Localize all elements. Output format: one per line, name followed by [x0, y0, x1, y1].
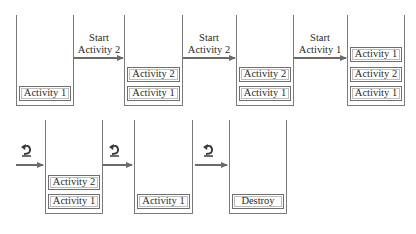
transition-label-line1: Start: [183, 32, 235, 44]
arrow-right: [103, 164, 132, 166]
back-icon: [201, 142, 217, 158]
back-icon: [19, 142, 35, 158]
activity-stack-3: Activity 2 Activity 1: [236, 15, 294, 106]
activity-stack-4: Activity 1 Activity 2 Activity 1: [347, 15, 405, 106]
activity-stack-5: Activity 2 Activity 1: [45, 120, 103, 214]
transition-label: Start Activity 2: [183, 32, 235, 56]
stack-item-destroy: Destroy: [232, 194, 284, 209]
activity-stack-1: Activity 1: [16, 15, 74, 106]
stack-item: Activity 1: [350, 86, 402, 101]
transition-label-line2: Activity 1: [294, 44, 346, 56]
stack-item: Activity 2: [48, 175, 100, 190]
arrow-right: [195, 164, 227, 166]
transition-label-line1: Start: [294, 32, 346, 44]
stack-item: Activity 2: [350, 67, 402, 82]
stack-item: Activity 2: [127, 67, 180, 82]
activity-stack-2: Activity 2 Activity 1: [124, 15, 183, 106]
arrow-right: [294, 57, 346, 59]
stack-item: Activity 1: [48, 194, 100, 209]
stack-item: Activity 2: [239, 67, 291, 82]
transition-label: Start Activity 2: [74, 32, 124, 56]
arrow-right: [183, 57, 235, 59]
back-icon: [107, 142, 123, 158]
stack-item: Activity 1: [350, 47, 402, 62]
arrow-right: [74, 57, 123, 59]
stack-item: Activity 1: [19, 86, 71, 101]
stack-item: Activity 1: [127, 86, 180, 101]
stack-item: Activity 1: [239, 86, 291, 101]
transition-label-line2: Activity 2: [183, 44, 235, 56]
transition-label-line1: Start: [74, 32, 124, 44]
transition-label: Start Activity 1: [294, 32, 346, 56]
stack-item: Activity 1: [137, 194, 190, 209]
arrow-right: [16, 164, 43, 166]
activity-stack-7: Destroy: [229, 120, 287, 214]
activity-stack-6: Activity 1: [134, 120, 193, 214]
